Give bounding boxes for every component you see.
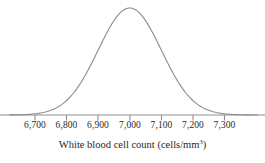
tick-label-7300: 7,300 (214, 119, 236, 131)
x-axis-title-main: White blood cell count (cells/mm (59, 139, 200, 150)
tick-label-6800: 6,800 (56, 119, 78, 131)
x-axis-title-close: ) (203, 139, 207, 150)
x-axis-tick-labels: 6,700 6,800 6,900 7,000 7,100 7,200 7,30… (0, 119, 265, 133)
x-axis-title: White blood cell count (cells/mm3) (0, 138, 265, 152)
tick-label-7100: 7,100 (151, 119, 173, 131)
normal-distribution-figure: 6,700 6,800 6,900 7,000 7,100 7,200 7,30… (0, 0, 265, 163)
tick-label-6700: 6,700 (24, 119, 46, 131)
bell-curve-path (0, 8, 265, 115)
tick-label-6900: 6,900 (87, 119, 109, 131)
tick-label-7200: 7,200 (182, 119, 204, 131)
tick-label-7000: 7,000 (119, 119, 141, 131)
